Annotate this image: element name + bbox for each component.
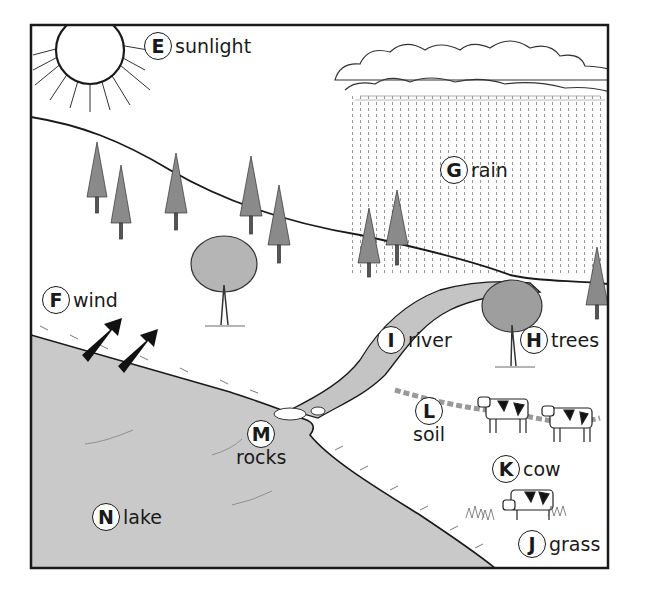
label-rain: G rain [440, 156, 508, 184]
label-text: trees [551, 331, 599, 350]
label-rocks: M rocks [236, 420, 286, 467]
letter-badge: G [440, 156, 468, 184]
label-text: sunlight [175, 37, 251, 56]
letter-badge: M [247, 420, 275, 448]
letter-badge: L [415, 397, 443, 425]
letter-badge: H [520, 326, 548, 354]
label-text: river [408, 331, 452, 350]
letter-text: L [423, 400, 435, 422]
label-soil: L soil [413, 397, 445, 444]
letter-text: M [252, 423, 271, 445]
letter-badge: F [42, 286, 70, 314]
rain-streaks [345, 95, 608, 275]
letter-text: I [387, 329, 394, 351]
letter-badge: K [492, 455, 520, 483]
letter-badge: E [144, 32, 172, 60]
label-text: cow [523, 460, 561, 479]
letter-text: E [152, 35, 165, 57]
letter-text: N [98, 506, 114, 528]
letter-text: H [526, 329, 542, 351]
letter-text: K [499, 458, 514, 480]
label-river: I river [377, 326, 452, 354]
label-cow: K cow [492, 455, 561, 483]
label-lake: N lake [92, 503, 162, 531]
label-text: lake [123, 508, 162, 527]
letter-badge: I [377, 326, 405, 354]
label-trees: H trees [520, 326, 599, 354]
letter-badge: N [92, 503, 120, 531]
label-text: rain [471, 161, 508, 180]
label-grass: J grass [518, 530, 600, 558]
label-text: wind [73, 291, 118, 310]
letter-text: J [528, 533, 535, 555]
label-text: grass [549, 535, 600, 554]
label-wind: F wind [42, 286, 118, 314]
letter-text: F [50, 289, 63, 311]
label-text: soil [413, 425, 445, 444]
label-sunlight: E sunlight [144, 32, 251, 60]
label-text: rocks [236, 448, 286, 467]
letter-text: G [446, 159, 462, 181]
letter-badge: J [518, 530, 546, 558]
